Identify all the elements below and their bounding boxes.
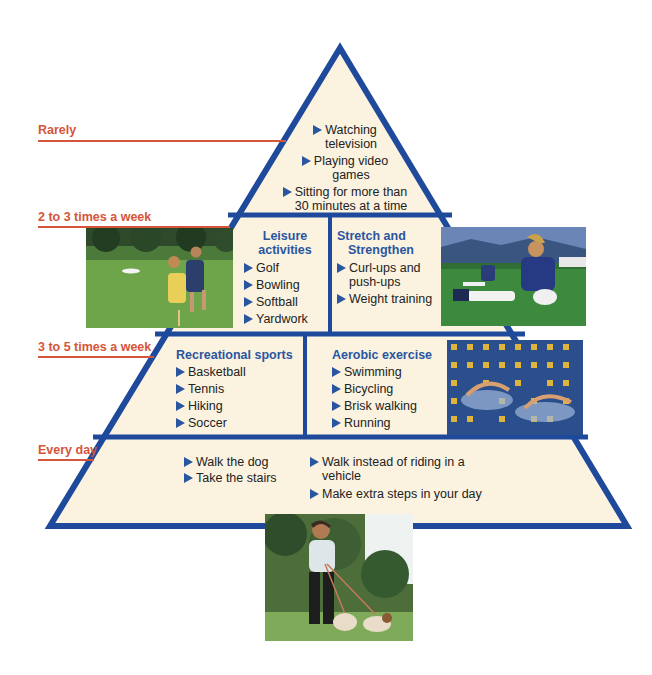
- bullet-triangle-icon: [184, 473, 193, 483]
- bullet-triangle-icon: [302, 156, 311, 166]
- bullet-triangle-icon: [332, 367, 341, 377]
- bullet-triangle-icon: [184, 457, 193, 467]
- bullet-triangle-icon: [244, 263, 253, 273]
- list-item: Weight training: [337, 292, 441, 306]
- list-item: Walk the dog: [184, 455, 304, 469]
- heading-stretch: Stretch andStrengthen: [337, 229, 441, 257]
- list-item: Watching television: [313, 123, 377, 151]
- tier-recreational-sports: Recreational sports Basketball Tennis Hi…: [176, 348, 301, 430]
- list-item: Curl-ups andpush-ups: [337, 261, 441, 289]
- activity-pyramid: Rarely 2 to 3 times a week 3 to 5 times …: [0, 0, 652, 675]
- tier-rarely: Watching television Playing video games …: [250, 120, 440, 213]
- photo-dog-walking: [265, 514, 413, 641]
- list-item: Take the stairs: [184, 471, 304, 485]
- bullet-triangle-icon: [332, 384, 341, 394]
- list-item: Walk instead of riding in avehicle: [310, 455, 510, 483]
- list-item: Make extra steps in your day: [310, 487, 510, 501]
- list-item: Golf: [244, 261, 326, 275]
- tier-aerobic-exercise: Aerobic exercise Swimming Bicycling Bris…: [332, 348, 444, 430]
- list-item: Swimming: [332, 365, 444, 379]
- bullet-triangle-icon: [337, 294, 346, 304]
- bullet-triangle-icon: [244, 297, 253, 307]
- bullet-triangle-icon: [332, 418, 341, 428]
- list-item: Bicycling: [332, 382, 444, 396]
- bullet-triangle-icon: [332, 401, 341, 411]
- list-item: Sitting for more than 30 minutes at a ti…: [283, 185, 408, 213]
- list-item: Running: [332, 416, 444, 430]
- tier-every-day-right: Walk instead of riding in avehicle Make …: [310, 455, 510, 501]
- tier-stretch-and-strengthen: Stretch andStrengthen Curl-ups andpush-u…: [337, 229, 441, 306]
- bullet-triangle-icon: [176, 401, 185, 411]
- bullet-triangle-icon: [244, 280, 253, 290]
- photo-frisbee: [86, 228, 233, 328]
- tier-every-day-left: Walk the dog Take the stairs: [184, 455, 304, 485]
- bullet-triangle-icon: [176, 367, 185, 377]
- list-item: Brisk walking: [332, 399, 444, 413]
- rule-3-to-5: [38, 356, 154, 358]
- photo-swimming: [447, 340, 583, 435]
- bullet-triangle-icon: [176, 418, 185, 428]
- bullet-triangle-icon: [176, 384, 185, 394]
- list-item: Bowling: [244, 278, 326, 292]
- list-item: Tennis: [176, 382, 301, 396]
- photo-stretching: [441, 227, 586, 326]
- bullet-triangle-icon: [310, 489, 319, 499]
- bullet-triangle-icon: [313, 125, 322, 135]
- bullet-triangle-icon: [310, 457, 319, 467]
- heading-recreational: Recreational sports: [176, 348, 301, 362]
- list-item: Playing video games: [302, 154, 388, 182]
- rule-rarely: [38, 140, 286, 142]
- rule-every-day: [38, 459, 94, 461]
- list-item: Basketball: [176, 365, 301, 379]
- tier-leisure-activities: Leisureactivities Golf Bowling Softball …: [244, 229, 326, 326]
- bullet-triangle-icon: [283, 187, 292, 197]
- label-rarely: Rarely: [38, 123, 76, 137]
- heading-aerobic: Aerobic exercise: [332, 348, 444, 362]
- list-item: Yardwork: [244, 312, 326, 326]
- label-every-day: Every day: [38, 443, 97, 457]
- list-item: Softball: [244, 295, 326, 309]
- bullet-triangle-icon: [244, 314, 253, 324]
- bullet-triangle-icon: [337, 263, 346, 273]
- heading-leisure: Leisureactivities: [244, 229, 326, 257]
- list-item: Soccer: [176, 416, 301, 430]
- label-3-to-5-times-a-week: 3 to 5 times a week: [38, 340, 151, 354]
- label-2-to-3-times-a-week: 2 to 3 times a week: [38, 210, 151, 224]
- list-item: Hiking: [176, 399, 301, 413]
